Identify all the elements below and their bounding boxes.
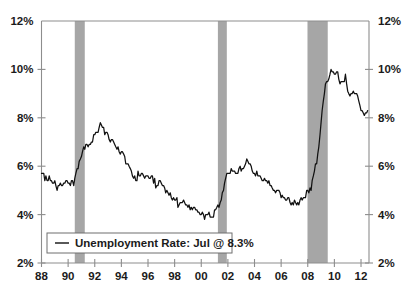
x-axis-tick-label: 88 [35, 270, 48, 282]
recession-band-recession-2001 [218, 21, 227, 263]
y-axis-right-labels: 12%10%8%6%4%2% [378, 15, 401, 269]
y-axis-right-tick-label: 10% [378, 63, 401, 75]
recession-band-recession-2007-2009 [307, 21, 327, 263]
x-axis-tick-label: 12 [355, 270, 368, 282]
y-axis-right-tick-label: 2% [378, 257, 395, 269]
y-axis-left-tick-label: 8% [17, 112, 34, 124]
recession-bands-group [75, 21, 328, 263]
x-axis-tick-label: 06 [275, 270, 288, 282]
y-axis-left-tick-label: 2% [17, 257, 34, 269]
y-axis-left-labels: 12%10%8%6%4%2% [10, 15, 33, 269]
x-axis-tick-label: 00 [195, 270, 208, 282]
y-axis-left-tick-label: 4% [17, 209, 34, 221]
y-axis-right-tick-label: 4% [378, 209, 395, 221]
chart-canvas: 12%10%8%6%4%2% 12%10%8%6%4%2% 8890929496… [0, 0, 410, 296]
x-axis-tick-label: 90 [62, 270, 75, 282]
x-axis-tick-label: 96 [142, 270, 155, 282]
chart-legend: Unemployment Rate: Jul @ 8.3% [47, 233, 254, 253]
x-axis-tick-label: 92 [88, 270, 101, 282]
legend-entry-label: Unemployment Rate: Jul @ 8.3% [75, 237, 254, 249]
x-axis-tick-label: 98 [168, 270, 181, 282]
y-axis-left-tick-label: 6% [17, 160, 34, 172]
x-axis-tick-label: 04 [248, 270, 261, 282]
x-axis-labels: 88909294969800020406081012 [35, 270, 367, 282]
x-axis-tick-label: 08 [301, 270, 314, 282]
y-axis-left-tick-label: 12% [10, 15, 33, 27]
x-axis-tick-label: 10 [328, 270, 341, 282]
x-axis-tick-label: 02 [221, 270, 234, 282]
y-axis-right-tick-label: 8% [378, 112, 395, 124]
y-axis-left-tick-label: 10% [10, 63, 33, 75]
y-axis-right-tick-label: 12% [378, 15, 401, 27]
x-axis-tick-label: 94 [115, 270, 128, 282]
recession-band-recession-1990-1991 [75, 21, 85, 263]
y-axis-right-tick-label: 6% [378, 160, 395, 172]
unemployment-rate-chart: 12%10%8%6%4%2% 12%10%8%6%4%2% 8890929496… [0, 0, 410, 296]
